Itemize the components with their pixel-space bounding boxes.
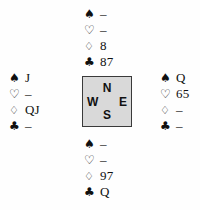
- hand-north-diamonds-row: ♢ 8: [84, 38, 113, 54]
- hand-south-clubs-ranks: Q: [97, 184, 110, 200]
- hand-east-spades-row: ♠ Q: [160, 70, 189, 86]
- club-icon: ♣: [160, 118, 173, 134]
- diamond-icon: ♢: [84, 39, 97, 55]
- hand-east-hearts-ranks: 65: [173, 86, 189, 102]
- hand-south-hearts-row: ♡ –: [84, 152, 113, 168]
- compass-label-south: S: [83, 109, 131, 121]
- hand-west-hearts-ranks: –: [22, 86, 32, 102]
- spade-icon: ♠: [9, 70, 22, 86]
- hand-east-clubs-row: ♣ –: [160, 118, 189, 134]
- heart-icon: ♡: [84, 152, 97, 168]
- hand-north-clubs-ranks: 87: [97, 54, 113, 70]
- hand-east-diamonds-ranks: –: [173, 102, 183, 118]
- club-icon: ♣: [84, 54, 97, 70]
- hand-east-diamonds-row: ♢ –: [160, 102, 189, 118]
- hand-south-diamonds-ranks: 97: [97, 168, 113, 184]
- hand-north-diamonds-ranks: 8: [97, 38, 107, 54]
- hand-west-clubs-ranks: –: [22, 118, 32, 134]
- club-icon: ♣: [9, 118, 22, 134]
- hand-south-spades-row: ♠ –: [84, 136, 113, 152]
- spade-icon: ♠: [84, 136, 97, 152]
- spade-icon: ♠: [84, 6, 97, 22]
- hand-east-clubs-ranks: –: [173, 118, 183, 134]
- hand-south: ♠ – ♡ – ♢ 97 ♣ Q: [84, 136, 113, 200]
- hand-south-clubs-row: ♣ Q: [84, 184, 113, 200]
- compass-box: N W E S: [82, 76, 132, 127]
- hand-west: ♠ J ♡ – ♢ QJ ♣ –: [9, 70, 40, 134]
- hand-north-spades-row: ♠ –: [84, 6, 113, 22]
- hand-west-clubs-row: ♣ –: [9, 118, 40, 134]
- hand-west-spades-ranks: J: [22, 70, 30, 86]
- bridge-deal-diagram: ♠ – ♡ – ♢ 8 ♣ 87 ♠ J ♡ – ♢ QJ ♣: [0, 0, 200, 210]
- hand-east-hearts-row: ♡ 65: [160, 86, 189, 102]
- hand-north: ♠ – ♡ – ♢ 8 ♣ 87: [84, 6, 113, 70]
- hand-north-spades-ranks: –: [97, 6, 107, 22]
- hand-west-diamonds-row: ♢ QJ: [9, 102, 40, 118]
- compass-label-east: E: [119, 96, 127, 108]
- spade-icon: ♠: [160, 70, 173, 86]
- compass-label-north: N: [83, 82, 131, 94]
- heart-icon: ♡: [160, 86, 173, 102]
- hand-north-hearts-row: ♡ –: [84, 22, 113, 38]
- heart-icon: ♡: [9, 86, 22, 102]
- hand-west-diamonds-ranks: QJ: [22, 102, 40, 118]
- diamond-icon: ♢: [160, 103, 173, 119]
- hand-west-hearts-row: ♡ –: [9, 86, 40, 102]
- hand-south-spades-ranks: –: [97, 136, 107, 152]
- hand-east: ♠ Q ♡ 65 ♢ – ♣ –: [160, 70, 189, 134]
- hand-south-diamonds-row: ♢ 97: [84, 168, 113, 184]
- hand-east-spades-ranks: Q: [173, 70, 186, 86]
- heart-icon: ♡: [84, 22, 97, 38]
- hand-north-hearts-ranks: –: [97, 22, 107, 38]
- diamond-icon: ♢: [84, 169, 97, 185]
- club-icon: ♣: [84, 184, 97, 200]
- compass-label-west: W: [87, 96, 98, 108]
- hand-south-hearts-ranks: –: [97, 152, 107, 168]
- hand-west-spades-row: ♠ J: [9, 70, 40, 86]
- diamond-icon: ♢: [9, 103, 22, 119]
- hand-north-clubs-row: ♣ 87: [84, 54, 113, 70]
